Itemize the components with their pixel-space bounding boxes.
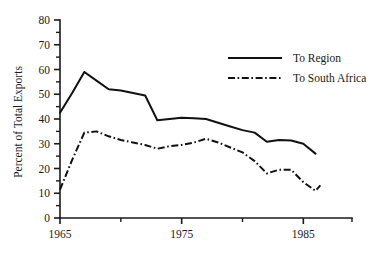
y-tick-label: 20 xyxy=(39,163,51,175)
chart-container: Percent of Total Exports 010203040506070… xyxy=(0,0,378,257)
y-tick-label: 70 xyxy=(39,39,51,51)
y-tick-label: 40 xyxy=(39,113,51,125)
y-tick-label: 80 xyxy=(39,14,51,26)
x-tick-label: 1975 xyxy=(170,228,193,240)
y-axis-tick-labels: 01020304050607080 xyxy=(39,14,51,224)
legend-label-to-south-africa: To South Africa xyxy=(293,72,366,84)
line-chart: Percent of Total Exports 010203040506070… xyxy=(0,0,378,257)
y-tick-label: 0 xyxy=(44,212,50,224)
y-tick-label: 50 xyxy=(39,88,51,100)
y-tick-label: 10 xyxy=(39,187,51,199)
y-tick-label: 30 xyxy=(39,138,51,150)
x-tick-label: 1965 xyxy=(49,228,72,240)
legend-label-to-region: To Region xyxy=(293,52,341,65)
x-tick-label: 1985 xyxy=(292,228,315,240)
y-tick-label: 60 xyxy=(39,64,51,76)
y-axis-label: Percent of Total Exports xyxy=(12,66,25,178)
